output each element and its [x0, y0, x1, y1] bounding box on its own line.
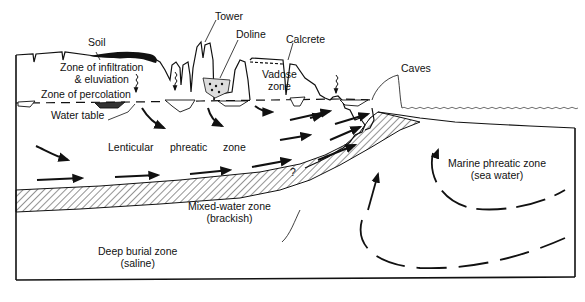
- label-mixed-line2: (brackish): [188, 212, 271, 224]
- label-caves: Caves: [401, 62, 431, 74]
- sea-surface: [402, 107, 578, 109]
- label-water-table: Water table: [51, 109, 104, 121]
- label-marine-phreatic-zone: Marine phreatic zone (sea water): [448, 157, 546, 181]
- label-deep-line1: Deep burial zone: [98, 245, 177, 257]
- label-vadose-line1: Vadose: [262, 68, 297, 80]
- label-marine-line1: Marine phreatic zone: [448, 157, 546, 169]
- label-lenticular-1: Lenticular: [108, 141, 154, 153]
- label-mixed-line1: Mixed-water zone: [188, 200, 271, 212]
- doline-fill: [203, 78, 230, 98]
- label-infiltration-zone: Zone of infiltration & eluviation: [60, 61, 143, 85]
- label-soil: Soil: [88, 36, 106, 48]
- label-doline: Doline: [236, 28, 266, 40]
- label-percolation-zone: Zone of percolation: [41, 88, 131, 100]
- label-infiltration-line1: Zone of infiltration: [60, 61, 143, 73]
- label-lenticular-2: phreatic: [170, 141, 207, 153]
- label-calcrete: Calcrete: [286, 33, 325, 45]
- infiltration-arrows: [136, 72, 338, 93]
- label-infiltration-line2: & eluviation: [60, 73, 143, 85]
- label-vadose-zone: Vadose zone: [262, 68, 297, 92]
- label-question-mark: ?: [290, 166, 296, 178]
- label-vadose-line2: zone: [262, 80, 297, 92]
- label-marine-line2: (sea water): [448, 169, 546, 181]
- label-lenticular-3: zone: [223, 141, 246, 153]
- label-deep-line2: (saline): [98, 257, 177, 269]
- label-mixed-water-zone: Mixed-water zone (brackish): [188, 200, 271, 224]
- label-tower: Tower: [215, 10, 243, 22]
- label-deep-burial-zone: Deep burial zone (saline): [98, 245, 177, 269]
